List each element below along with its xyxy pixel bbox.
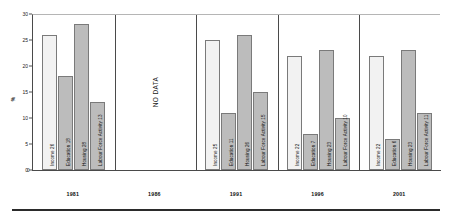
bar-value-label: Income 25: [212, 144, 217, 166]
x-axis-year-label: 1991: [195, 191, 277, 197]
bar-value-label: Education 7: [310, 141, 315, 166]
x-axis-baseline: [32, 170, 441, 171]
bars-container: Income 22Education 6Housing 23Labour For…: [359, 14, 441, 170]
bar-value-label: Education 6: [392, 141, 397, 166]
x-axis-year-label: 1996: [277, 191, 359, 197]
bar-group-1991: Income 25Education 11Housing 26Labour Fo…: [196, 14, 278, 170]
bar-labour-force-activity[interactable]: Labour Force Activity 13: [90, 102, 105, 170]
bar-housing[interactable]: Housing 23: [319, 50, 334, 170]
axis-origin-label: 0: [27, 168, 30, 173]
bar-value-label: Housing 23: [326, 142, 331, 166]
bar-value-label: Labour Force Activity 10: [342, 114, 347, 166]
y-axis-ticks: 051015202530: [10, 14, 32, 170]
y-axis-tick-label: 15: [22, 89, 28, 95]
bar-value-label: Labour Force Activity 11: [424, 115, 429, 166]
bar-value-label: Income 26: [49, 144, 54, 166]
bar-value-label: Housing 23: [408, 142, 413, 166]
bar-income[interactable]: Income 25: [205, 40, 220, 170]
bar-education[interactable]: Education 11: [221, 113, 236, 170]
y-axis-tick-label: 20: [22, 63, 28, 69]
bar-housing[interactable]: Housing 26: [237, 35, 252, 170]
no-data-text: NO DATA: [152, 77, 159, 108]
bar-income[interactable]: Income 22: [369, 56, 384, 170]
y-axis-tick-label: 25: [22, 37, 28, 43]
bars-container: Income 22Education 7Housing 23Labour For…: [278, 14, 360, 170]
bar-value-label: Labour Force Activity 15: [260, 114, 265, 166]
bar-value-label: Housing 26: [244, 142, 249, 166]
bar-education[interactable]: Education 6: [385, 139, 400, 170]
bar-value-label: Education 11: [228, 138, 233, 166]
plot-area: Income 26Education 18Housing 28Labour Fo…: [32, 14, 440, 170]
x-axis-year-label: 1986: [114, 191, 196, 197]
bar-value-label: Labour Force Activity 13: [97, 114, 102, 166]
bar-labour-force-activity[interactable]: Labour Force Activity 15: [253, 92, 268, 170]
bar-income[interactable]: Income 22: [287, 56, 302, 170]
footer-rule: [12, 209, 440, 211]
bar-chart-figure: % 051015202530 Income 26Education 18Hous…: [0, 0, 450, 216]
bar-group-1986: NO DATA: [115, 14, 197, 170]
bar-group-1981: Income 26Education 18Housing 28Labour Fo…: [33, 14, 115, 170]
bar-housing[interactable]: Housing 28: [74, 24, 89, 170]
bar-group-1996: Income 22Education 7Housing 23Labour For…: [278, 14, 360, 170]
bar-education[interactable]: Education 7: [303, 134, 318, 170]
bar-labour-force-activity[interactable]: Labour Force Activity 10: [335, 118, 350, 170]
bars-container: Income 25Education 11Housing 26Labour Fo…: [196, 14, 278, 170]
bars-container: Income 26Education 18Housing 28Labour Fo…: [33, 14, 115, 170]
x-axis-year-label: 1981: [32, 191, 114, 197]
bar-value-label: Income 22: [294, 144, 299, 166]
bar-value-label: Education 18: [65, 138, 70, 166]
bar-value-label: Housing 28: [81, 142, 86, 166]
y-axis-tick-label: 10: [22, 115, 28, 121]
bar-income[interactable]: Income 26: [42, 35, 57, 170]
y-axis-tick-label: 30: [22, 11, 28, 17]
bar-value-label: Income 22: [376, 144, 381, 166]
x-axis-year-label: 2001: [358, 191, 440, 197]
bar-education[interactable]: Education 18: [58, 76, 73, 170]
bar-housing[interactable]: Housing 23: [401, 50, 416, 170]
y-axis-tick-label: 5: [25, 141, 28, 147]
bar-group-2001: Income 22Education 6Housing 23Labour For…: [359, 14, 441, 170]
bar-labour-force-activity[interactable]: Labour Force Activity 11: [417, 113, 432, 170]
